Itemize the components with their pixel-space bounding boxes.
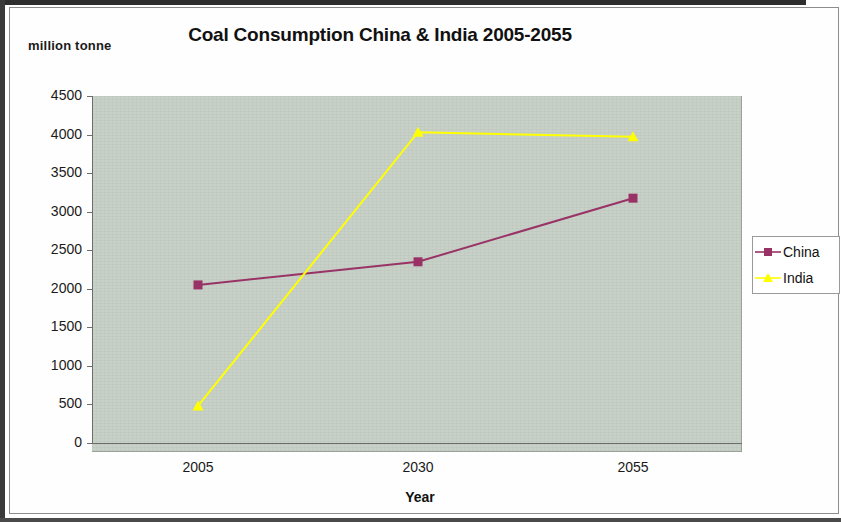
legend-item-china: China xyxy=(753,240,839,264)
y-tick-mark xyxy=(87,212,92,213)
y-tick-mark xyxy=(87,96,92,97)
y-tick-mark xyxy=(87,250,92,251)
y-tick-label: 4000 xyxy=(10,126,82,142)
y-tick-label: 3500 xyxy=(10,164,82,180)
chart-plot-svg xyxy=(92,96,741,451)
legend-item-india: India xyxy=(753,266,839,290)
x-tick-label: 2005 xyxy=(153,459,243,475)
chart-frame: million tonne Coal Consumption China & I… xyxy=(9,7,839,514)
y-axis-line xyxy=(92,96,93,444)
y-tick-label: 1000 xyxy=(10,357,82,373)
legend-label-india: India xyxy=(783,271,813,285)
scan-edge-left xyxy=(0,0,5,522)
y-tick-mark xyxy=(87,289,92,290)
data-point-marker-square xyxy=(414,257,423,266)
y-tick-label: 1500 xyxy=(10,318,82,334)
y-tick-label: 500 xyxy=(10,395,82,411)
chart-legend: China India xyxy=(752,236,840,294)
series-line-china xyxy=(198,198,633,285)
y-tick-mark xyxy=(87,173,92,174)
y-tick-mark xyxy=(87,135,92,136)
scan-edge-bottom xyxy=(0,518,841,522)
series-line-india xyxy=(198,132,633,406)
x-axis-title: Year xyxy=(375,489,465,505)
y-tick-label: 0 xyxy=(10,434,82,450)
x-axis-line xyxy=(92,443,742,444)
y-tick-label: 3000 xyxy=(10,203,82,219)
x-tick-label: 2030 xyxy=(373,459,463,475)
legend-label-china: China xyxy=(783,245,820,259)
y-tick-label: 2500 xyxy=(10,241,82,257)
data-point-marker-square xyxy=(194,280,203,289)
y-tick-mark xyxy=(87,366,92,367)
scan-edge-top xyxy=(0,0,806,5)
y-tick-mark xyxy=(87,443,92,444)
data-point-marker-square xyxy=(629,194,638,203)
y-tick-mark xyxy=(87,327,92,328)
y-tick-label: 2000 xyxy=(10,280,82,296)
legend-marker-square-icon xyxy=(753,243,783,261)
y-tick-label: 4500 xyxy=(10,87,82,103)
x-tick-label: 2055 xyxy=(588,459,678,475)
screenshot-page: million tonne Coal Consumption China & I… xyxy=(0,0,841,522)
y-tick-mark xyxy=(87,404,92,405)
legend-marker-triangle-icon xyxy=(753,269,783,287)
chart-title: Coal Consumption China & India 2005-2055 xyxy=(10,24,750,46)
